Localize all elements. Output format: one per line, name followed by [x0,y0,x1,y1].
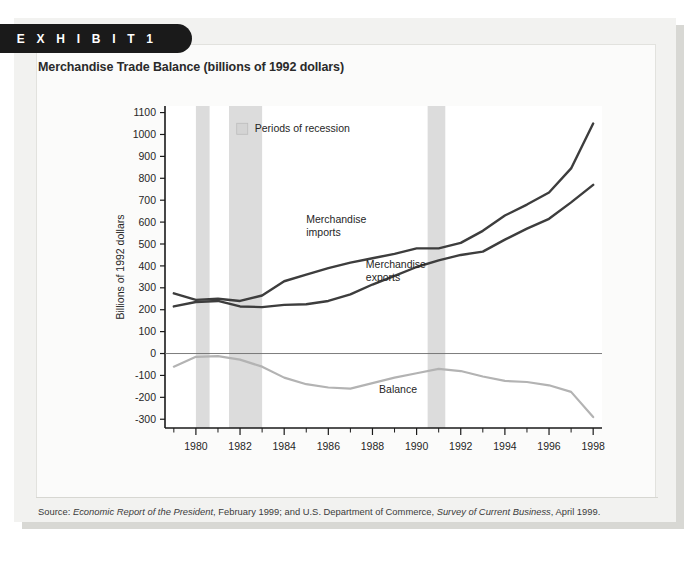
y-axis-title: Billions of 1992 dollars [114,214,126,319]
y-tick-label: 700 [138,194,156,206]
x-tick-label: 1998 [581,440,605,452]
source-mid: , February 1999; and U.S. Department of … [213,506,437,517]
x-tick-label: 1996 [537,440,561,452]
x-tick-label: 1988 [361,440,385,452]
x-tick-label: 1994 [493,440,517,452]
recession-band-3 [428,106,446,428]
source-italic-report: Economic Report of the President [73,506,213,517]
y-tick-label: 300 [138,281,156,293]
recession-band-2 [229,106,262,428]
x-tick-label: 1986 [317,440,341,452]
y-tick-label: 600 [138,216,156,228]
exhibit-figure: E X H I B I T 1 Merchandise Trade Balanc… [0,0,695,570]
source-italic-survey: Survey of Current Business [437,506,551,517]
legend-recession-label: Periods of recession [255,122,350,134]
footer-divider [36,497,658,498]
y-tick-label: -300 [135,413,156,425]
annotation-imports-line1: Merchandise [306,213,366,225]
x-tick-label: 1980 [184,440,208,452]
x-tick-label: 1990 [405,440,429,452]
y-tick-label: 200 [138,303,156,315]
y-tick-label: 1000 [133,128,157,140]
exhibit-tab-label: E X H I B I T 1 [0,24,178,53]
panel-shadow-bottom [22,522,684,529]
y-tick-label: 0 [150,347,156,359]
annotation-balance: Balance [379,383,417,395]
chart-title: Merchandise Trade Balance (billions of 1… [38,60,344,74]
x-tick-label: 1992 [449,440,473,452]
y-tick-label: 400 [138,260,156,272]
annotation-exports-line2: exports [366,271,400,283]
recession-band-1 [196,106,210,428]
annotation-exports-line1: Merchandise [366,258,426,270]
x-tick-label: 1982 [228,440,252,452]
legend-recession-swatch [237,123,248,134]
chart-plot-area: -300-200-1000100200300400500600700800900… [110,98,610,473]
source-prefix: Source: [38,506,73,517]
y-tick-label: 900 [138,150,156,162]
panel-shadow-right [676,25,684,529]
x-tick-label: 1984 [273,440,297,452]
annotation-imports-line2: imports [306,226,340,238]
trade-balance-line-chart: -300-200-1000100200300400500600700800900… [110,98,610,473]
y-tick-label: 800 [138,172,156,184]
y-tick-label: 100 [138,325,156,337]
source-note: Source: Economic Report of the President… [38,506,600,517]
exhibit-tab: E X H I B I T 1 [0,24,192,53]
y-tick-label: -100 [135,369,156,381]
y-tick-label: -200 [135,391,156,403]
y-tick-label: 1100 [133,106,156,118]
source-suffix: , April 1999. [551,506,601,517]
y-tick-label: 500 [138,238,156,250]
